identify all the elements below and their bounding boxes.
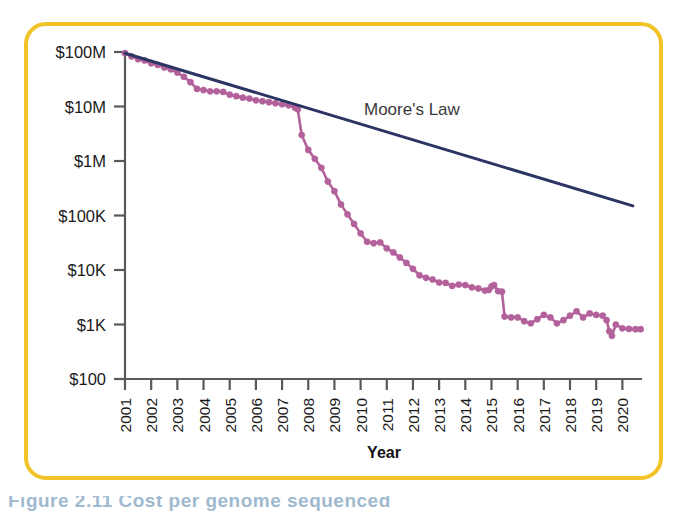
x-tick-label: 2012 — [405, 398, 422, 432]
series-marker — [384, 245, 390, 251]
x-tick-label: 2007 — [274, 398, 291, 432]
x-tick-label: 2002 — [143, 398, 160, 432]
series-marker — [443, 280, 449, 286]
series-marker — [200, 87, 206, 93]
series-marker — [410, 266, 416, 272]
chart-series-layer — [122, 50, 644, 339]
series-marker — [462, 282, 468, 288]
series-marker — [469, 284, 475, 290]
series-marker — [429, 276, 435, 282]
y-tick-label: $1K — [77, 316, 106, 334]
x-tick-label: 2004 — [196, 398, 213, 433]
y-tick-label: $100 — [69, 370, 106, 388]
series-marker — [491, 282, 497, 288]
x-axis-title: Year — [367, 444, 401, 461]
y-tick-label: $10M — [65, 98, 106, 116]
series-marker — [227, 92, 233, 98]
series-marker — [609, 333, 615, 339]
x-tick-label: 2005 — [222, 398, 239, 432]
series-marker — [423, 275, 429, 281]
x-tick-label: 2020 — [614, 398, 631, 433]
series-marker — [266, 99, 272, 105]
x-tick-label: 2008 — [300, 398, 317, 432]
series-marker — [240, 95, 246, 101]
x-tick-label: 2009 — [326, 398, 343, 432]
figure-caption-strip: Figure 2.11 Cost per genome sequenced — [0, 496, 687, 516]
series-marker — [580, 314, 586, 320]
series-marker — [567, 313, 573, 319]
series-marker — [253, 97, 259, 103]
x-tick-label: 2003 — [169, 398, 186, 432]
series-line-1 — [125, 53, 633, 206]
series-marker — [233, 93, 239, 99]
series-marker — [312, 156, 318, 162]
series-marker — [364, 239, 370, 245]
series-marker — [587, 310, 593, 316]
series-marker — [259, 98, 265, 104]
series-marker — [403, 260, 409, 266]
series-marker — [272, 100, 278, 106]
series-marker — [475, 285, 481, 291]
moores-law-annotation: Moore's Law — [364, 100, 461, 119]
series-marker — [299, 132, 305, 138]
series-marker — [371, 240, 377, 246]
x-tick-label: 2014 — [457, 398, 474, 433]
series-marker — [499, 289, 505, 295]
series-marker — [613, 321, 619, 327]
series-marker — [181, 74, 187, 80]
series-marker — [554, 320, 560, 326]
series-marker — [187, 79, 193, 85]
x-tick-label: 2015 — [483, 398, 500, 432]
series-marker — [508, 314, 514, 320]
series-marker — [194, 86, 200, 92]
figure-caption: Figure 2.11 Cost per genome sequenced — [8, 496, 391, 512]
series-marker — [214, 88, 220, 94]
series-marker — [638, 326, 644, 332]
figure-frame: $100M$10M$1M$100K$10K$1K$100 20012002200… — [24, 22, 663, 480]
x-tick-label: 2006 — [248, 398, 265, 432]
series-marker — [351, 221, 357, 227]
series-marker — [331, 188, 337, 194]
series-marker — [560, 317, 566, 323]
y-axis-ticks: $100M$10M$1M$100K$10K$1K$100 — [56, 43, 125, 388]
series-marker — [547, 314, 553, 320]
series-marker — [501, 313, 507, 319]
series-marker — [397, 254, 403, 260]
series-marker — [541, 312, 547, 318]
series-marker — [534, 316, 540, 322]
series-marker — [220, 89, 226, 95]
y-tick-label: $10K — [67, 261, 106, 279]
series-marker — [325, 178, 331, 184]
series-marker — [521, 318, 527, 324]
x-tick-label: 2017 — [536, 398, 553, 432]
series-marker — [318, 165, 324, 171]
series-marker — [604, 317, 610, 323]
y-tick-label: $100M — [56, 43, 106, 61]
series-marker — [338, 201, 344, 207]
x-tick-label: 2001 — [117, 398, 134, 432]
y-tick-label: $100K — [58, 207, 106, 225]
series-marker — [515, 314, 521, 320]
series-marker — [449, 283, 455, 289]
series-marker — [528, 320, 534, 326]
x-tick-label: 2011 — [379, 398, 396, 431]
cost-per-genome-chart: $100M$10M$1M$100K$10K$1K$100 20012002200… — [28, 26, 659, 476]
x-axis-ticks: 2001200220032004200520062007200820092010… — [117, 379, 631, 432]
series-marker — [456, 281, 462, 287]
y-tick-label: $1M — [74, 152, 106, 170]
series-marker — [207, 88, 213, 94]
series-marker — [619, 325, 625, 331]
x-tick-label: 2018 — [562, 398, 579, 432]
series-marker — [436, 279, 442, 285]
x-tick-label: 2019 — [588, 398, 605, 432]
series-marker — [344, 211, 350, 217]
series-marker — [626, 326, 632, 332]
series-marker — [593, 312, 599, 318]
series-marker — [357, 230, 363, 236]
series-marker — [305, 147, 311, 153]
series-marker — [573, 308, 579, 314]
x-tick-label: 2013 — [431, 398, 448, 432]
x-tick-label: 2010 — [353, 398, 370, 433]
series-line-0 — [125, 53, 641, 336]
series-marker — [246, 95, 252, 101]
